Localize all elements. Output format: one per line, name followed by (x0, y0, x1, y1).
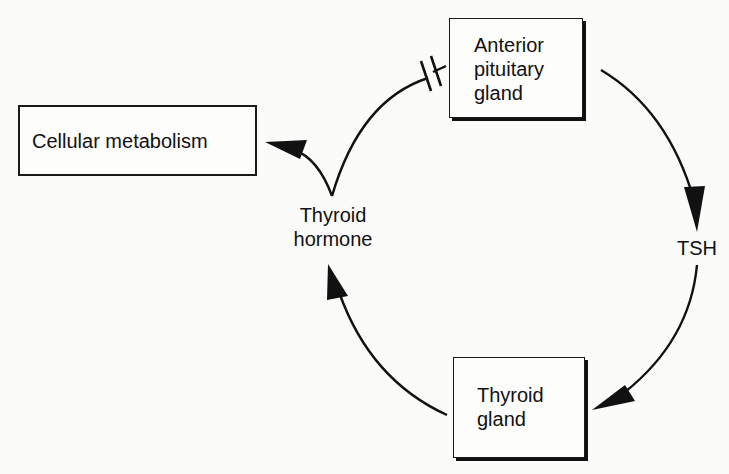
block-bar-icon (421, 61, 431, 91)
thyroid-gland-box: Thyroid gland (453, 357, 585, 458)
thyroid-gland-label: Thyroid gland (477, 383, 544, 431)
arrow-thyroid-to-hormone (339, 292, 447, 415)
tsh-label: TSH (672, 236, 722, 260)
cellular-metabolism-label: Cellular metabolism (32, 129, 208, 153)
thyroid-hormone-label: Thyroid hormone (278, 203, 388, 251)
arrowhead-left-up-icon (265, 140, 307, 159)
anterior-pituitary-label: Anterior pituitary gland (474, 33, 544, 105)
arrowhead-up-icon (327, 264, 348, 300)
arrowhead-down-icon (684, 186, 705, 232)
arrow-tsh-to-thyroid (625, 265, 697, 392)
arrow-pituitary-to-tsh (601, 70, 694, 200)
thyroid-feedback-diagram: Anterior pituitary gland Cellular metabo… (0, 0, 729, 474)
arrow-hormone-to-pituitary-blocked (332, 78, 428, 196)
cellular-metabolism-box: Cellular metabolism (18, 105, 257, 176)
anterior-pituitary-box: Anterior pituitary gland (449, 18, 583, 118)
